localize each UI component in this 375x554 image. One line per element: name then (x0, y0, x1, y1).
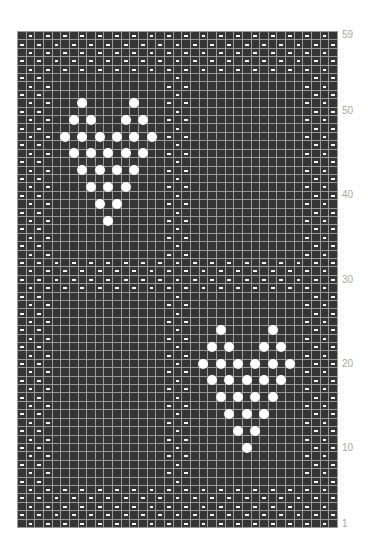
knit-cell (208, 242, 216, 249)
knit-cell (165, 461, 173, 468)
knit-cell (226, 150, 234, 157)
knit-cell (277, 99, 285, 106)
knit-cell (234, 192, 242, 199)
knit-cell (295, 419, 303, 426)
purl-cell (182, 486, 190, 493)
knit-cell (104, 520, 112, 527)
knit-cell (252, 141, 260, 148)
knit-cell (295, 217, 303, 224)
purl-cell (53, 494, 61, 501)
knit-cell (18, 116, 26, 123)
purl-cell (312, 309, 320, 316)
purl-cell (303, 66, 311, 73)
knit-cell (104, 267, 112, 274)
knit-cell (61, 293, 69, 300)
knit-cell (226, 141, 234, 148)
knit-cell (148, 469, 156, 476)
purl-cell (35, 393, 43, 400)
knit-cell (303, 91, 311, 98)
purl-cell (329, 444, 337, 451)
knit-cell (79, 251, 87, 258)
knit-cell (208, 452, 216, 459)
knit-cell (61, 335, 69, 342)
knit-cell (122, 225, 130, 232)
knit-cell (312, 486, 320, 493)
knit-cell (217, 469, 225, 476)
knit-cell (260, 200, 268, 207)
bobble-cell (79, 99, 87, 106)
knit-cell (148, 402, 156, 409)
knit-cell (156, 74, 164, 81)
purl-cell (44, 183, 52, 190)
bobble-cell (113, 133, 121, 140)
knit-cell (53, 503, 61, 510)
knit-cell (87, 217, 95, 224)
knit-cell (87, 234, 95, 241)
knit-cell (53, 335, 61, 342)
knit-cell (329, 116, 337, 123)
knit-cell (122, 209, 130, 216)
purl-cell (27, 183, 35, 190)
knit-cell (27, 57, 35, 64)
knit-cell (18, 200, 26, 207)
knit-cell (130, 402, 138, 409)
knit-cell (269, 74, 277, 81)
bobble-cell (260, 343, 268, 350)
knit-cell (87, 503, 95, 510)
knit-cell (156, 82, 164, 89)
knit-cell (226, 167, 234, 174)
purl-cell (174, 225, 182, 232)
knit-cell (104, 116, 112, 123)
purl-cell (234, 503, 242, 510)
knit-cell (208, 82, 216, 89)
purl-cell (303, 351, 311, 358)
purl-cell (27, 200, 35, 207)
knit-cell (260, 318, 268, 325)
knit-cell (208, 225, 216, 232)
knit-cell (269, 251, 277, 258)
knit-cell (104, 461, 112, 468)
purl-cell (18, 410, 26, 417)
knit-cell (87, 393, 95, 400)
knit-cell (200, 116, 208, 123)
knit-cell (104, 251, 112, 258)
knit-cell (208, 444, 216, 451)
purl-cell (44, 234, 52, 241)
knit-cell (139, 192, 147, 199)
knit-cell (286, 335, 294, 342)
knit-cell (122, 520, 130, 527)
purl-cell (113, 66, 121, 73)
knit-cell (130, 478, 138, 485)
knit-cell (277, 444, 285, 451)
knit-cell (79, 57, 87, 64)
knit-cell (53, 91, 61, 98)
knit-cell (234, 494, 242, 501)
knit-cell (156, 503, 164, 510)
knit-cell (44, 40, 52, 47)
knit-cell (243, 82, 251, 89)
knit-cell (234, 82, 242, 89)
knit-cell (217, 116, 225, 123)
knit-cell (312, 301, 320, 308)
knit-cell (191, 200, 199, 207)
knit-cell (27, 461, 35, 468)
knitting-chart-grid (17, 31, 338, 528)
purl-cell (18, 461, 26, 468)
knit-cell (156, 242, 164, 249)
knit-cell (252, 452, 260, 459)
knit-cell (174, 251, 182, 258)
knit-cell (191, 393, 199, 400)
knit-cell (269, 351, 277, 358)
knit-cell (53, 351, 61, 358)
knit-cell (61, 360, 69, 367)
knit-cell (217, 200, 225, 207)
knit-cell (226, 444, 234, 451)
purl-cell (329, 326, 337, 333)
row-label: 50 (342, 106, 353, 116)
knit-cell (156, 251, 164, 258)
knit-cell (226, 183, 234, 190)
knit-cell (96, 99, 104, 106)
knit-cell (122, 91, 130, 98)
knit-cell (234, 175, 242, 182)
knit-cell (165, 108, 173, 115)
